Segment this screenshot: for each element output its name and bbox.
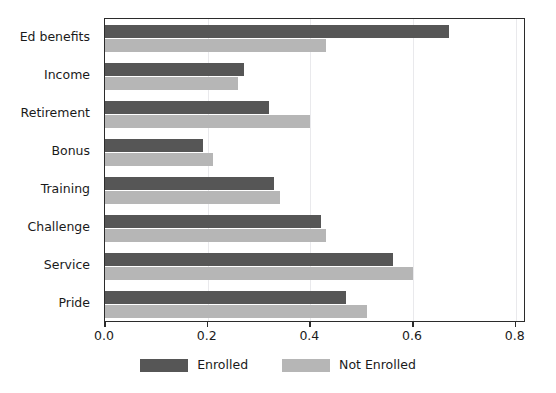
y-tick-label: Service bbox=[0, 258, 98, 272]
legend-label: Enrolled bbox=[197, 358, 248, 372]
y-tick-label: Challenge bbox=[0, 220, 98, 234]
bar-not-enrolled bbox=[105, 153, 213, 166]
legend-swatch-not-enrolled bbox=[282, 359, 330, 372]
plot-area bbox=[104, 18, 525, 322]
bar-chart-figure: Ed benefitsIncomeRetirementBonusTraining… bbox=[0, 0, 556, 393]
bar-enrolled bbox=[105, 215, 321, 228]
bar-not-enrolled bbox=[105, 191, 280, 204]
bars-layer bbox=[105, 19, 524, 321]
x-tick-label: 0.0 bbox=[94, 328, 114, 344]
legend-label: Not Enrolled bbox=[339, 358, 416, 372]
bar-group bbox=[105, 139, 524, 166]
y-tick-label: Ed benefits bbox=[0, 30, 98, 44]
x-tick-label: 0.4 bbox=[299, 328, 319, 344]
bar-not-enrolled bbox=[105, 229, 326, 242]
bar-group bbox=[105, 291, 524, 318]
y-axis-labels: Ed benefitsIncomeRetirementBonusTraining… bbox=[0, 18, 98, 322]
bar-enrolled bbox=[105, 25, 449, 38]
x-tick-mark bbox=[412, 322, 414, 327]
bar-not-enrolled bbox=[105, 39, 326, 52]
x-tick-mark bbox=[104, 322, 106, 327]
x-tick-label: 0.8 bbox=[505, 328, 525, 344]
legend-entry: Not Enrolled bbox=[282, 358, 416, 372]
bar-group bbox=[105, 177, 524, 204]
bar-enrolled bbox=[105, 291, 346, 304]
bar-group bbox=[105, 101, 524, 128]
bar-group bbox=[105, 25, 524, 52]
bar-not-enrolled bbox=[105, 115, 310, 128]
bar-enrolled bbox=[105, 177, 274, 190]
y-tick-label: Training bbox=[0, 182, 98, 196]
bar-enrolled bbox=[105, 101, 269, 114]
bar-group bbox=[105, 215, 524, 242]
y-tick-label: Bonus bbox=[0, 144, 98, 158]
bar-enrolled bbox=[105, 139, 203, 152]
x-tick-label: 0.6 bbox=[402, 328, 422, 344]
bar-not-enrolled bbox=[105, 267, 413, 280]
bar-enrolled bbox=[105, 253, 393, 266]
bar-enrolled bbox=[105, 63, 244, 76]
y-tick-label: Retirement bbox=[0, 106, 98, 120]
bar-group bbox=[105, 63, 524, 90]
x-axis-labels: 0.00.20.40.60.8 bbox=[0, 328, 556, 348]
legend-entry: Enrolled bbox=[140, 358, 248, 372]
legend-swatch-enrolled bbox=[140, 359, 188, 372]
x-tick-mark bbox=[309, 322, 311, 327]
bar-not-enrolled bbox=[105, 77, 238, 90]
x-tick-label: 0.2 bbox=[197, 328, 217, 344]
y-tick-label: Pride bbox=[0, 296, 98, 310]
y-tick-label: Income bbox=[0, 68, 98, 82]
x-tick-mark bbox=[515, 322, 517, 327]
chart-legend: EnrolledNot Enrolled bbox=[0, 358, 556, 372]
bar-not-enrolled bbox=[105, 305, 367, 318]
bar-group bbox=[105, 253, 524, 280]
x-tick-mark bbox=[207, 322, 209, 327]
